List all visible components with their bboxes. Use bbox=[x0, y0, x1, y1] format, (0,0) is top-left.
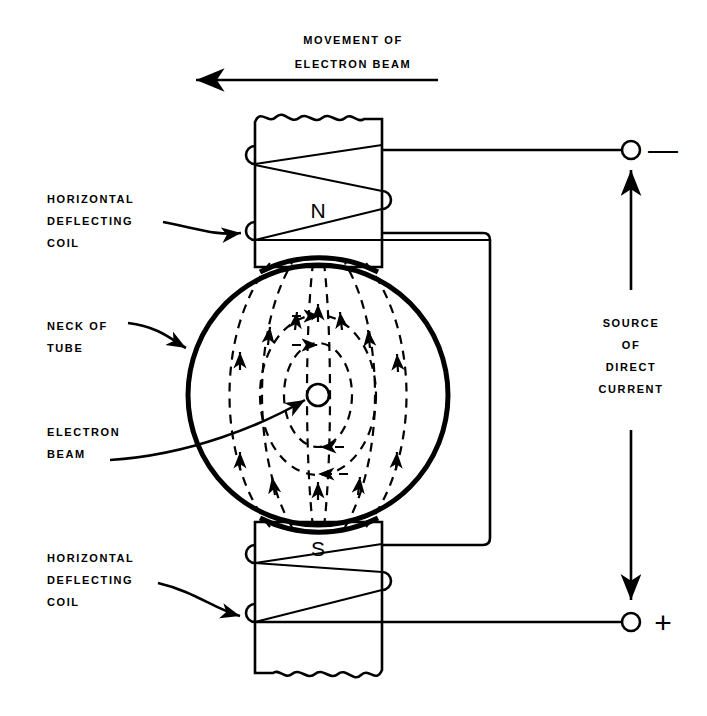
diagram-canvas: MOVEMENT OF ELECTRON BEAM N bbox=[0, 0, 707, 716]
negative-sign: — bbox=[648, 133, 678, 166]
pole-label-north: N bbox=[310, 199, 325, 222]
source-label-line-1: SOURCE bbox=[603, 317, 660, 329]
field-line-outer-left bbox=[230, 263, 271, 527]
coil-bottom-tap-right bbox=[382, 572, 391, 590]
field-line-mid-left bbox=[262, 263, 292, 527]
neck-label-line-2: TUBE bbox=[47, 342, 83, 354]
title-line-1: MOVEMENT OF bbox=[303, 34, 403, 46]
coil-bottom-winding-2 bbox=[255, 590, 382, 622]
coil-top-tap-upper-left bbox=[246, 146, 255, 164]
field-line-outer-right bbox=[366, 263, 407, 527]
wire-coil-interconnect-top bbox=[382, 233, 490, 240]
title-block: MOVEMENT OF ELECTRON BEAM bbox=[295, 34, 412, 70]
callout-coil-bottom: HORIZONTAL DEFLECTING COIL bbox=[47, 552, 240, 616]
coil-top-tap-right bbox=[382, 191, 391, 209]
coil-top-winding-1 bbox=[255, 165, 382, 191]
coil-bottom-label-line-1: HORIZONTAL bbox=[47, 552, 134, 564]
coil-top[interactable]: N bbox=[246, 115, 490, 267]
beam-label-line-2: BEAM bbox=[47, 448, 86, 460]
arrow-icon bbox=[268, 327, 270, 345]
coil-bottom-label-line-2: DEFLECTING bbox=[47, 574, 133, 586]
neck-label-line-1: NECK OF bbox=[47, 320, 108, 332]
positive-sign: + bbox=[654, 606, 672, 639]
coil-top-label-line-1: HORIZONTAL bbox=[47, 193, 134, 205]
beam-label-line-1: ELECTRON bbox=[47, 426, 120, 438]
field-line-mid-right bbox=[345, 263, 375, 527]
coil-top-label-line-3: COIL bbox=[47, 237, 80, 249]
coil-top-winding-0 bbox=[255, 145, 382, 164]
coil-bottom-tap-upper-left bbox=[246, 545, 255, 563]
source-label-line-3: DIRECT bbox=[606, 361, 657, 373]
coil-bottom-tap-lower-left bbox=[246, 604, 255, 622]
coil-bottom-leader-line bbox=[158, 583, 240, 616]
coil-top-leader-line bbox=[163, 222, 241, 234]
arrow-icon bbox=[396, 452, 397, 470]
neck-leader-line bbox=[128, 323, 186, 348]
pole-label-south: S bbox=[311, 537, 325, 560]
title-line-2: ELECTRON BEAM bbox=[295, 58, 412, 70]
beam-leader-line bbox=[110, 400, 305, 460]
coil-top-tap-lower-left bbox=[246, 222, 255, 240]
coil-bottom-winding-1 bbox=[255, 563, 382, 572]
arrow-icon bbox=[340, 312, 342, 330]
coil-bottom[interactable]: S bbox=[246, 522, 391, 677]
callout-coil-top: HORIZONTAL DEFLECTING COIL bbox=[47, 193, 241, 249]
terminal-positive[interactable] bbox=[622, 613, 640, 631]
callout-neck: NECK OF TUBE bbox=[47, 320, 186, 354]
arrow-icon bbox=[397, 354, 398, 372]
dc-source[interactable]: — + SOURCE OF DIRECT CURRENT bbox=[599, 133, 678, 639]
source-label-line-4: CURRENT bbox=[599, 383, 664, 395]
coil-top-label-line-2: DEFLECTING bbox=[47, 215, 133, 227]
coil-bottom-label-line-3: COIL bbox=[47, 596, 80, 608]
electron-beam-marker bbox=[307, 384, 329, 406]
coil-top-body bbox=[255, 115, 382, 267]
source-label-line-2: OF bbox=[622, 339, 640, 351]
terminal-negative[interactable] bbox=[622, 141, 640, 159]
